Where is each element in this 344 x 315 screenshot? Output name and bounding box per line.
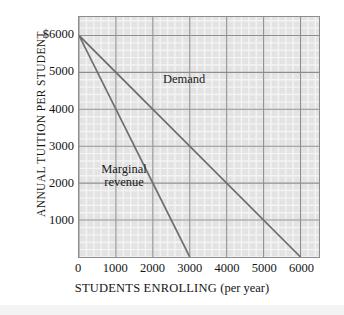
- data-series-lines: [79, 17, 319, 257]
- series-line-1: [79, 35, 190, 257]
- mr-label-line1: Marginal: [101, 162, 147, 176]
- mr-label-line2: revenue: [104, 175, 144, 189]
- bottom-band-artifact: [0, 305, 344, 315]
- y-tick-label: 3000: [18, 140, 74, 153]
- y-tick-label: 2000: [18, 177, 74, 190]
- y-tick-label: 5000: [18, 65, 74, 78]
- x-axis-tick-labels: 0100020003000400050006000: [0, 262, 344, 280]
- y-tick-label: 1000: [18, 214, 74, 227]
- series-label-marginal-revenue: Marginal revenue: [93, 163, 155, 189]
- y-tick-label: $6000: [18, 28, 74, 41]
- chart-figure: ANNUAL TUITION PER STUDENT 1000200030004…: [0, 0, 344, 315]
- plot-area: Demand Marginal revenue: [78, 16, 320, 258]
- series-line-0: [79, 35, 301, 257]
- x-axis-title-sub: (per year): [220, 281, 269, 295]
- x-axis-title-main: STUDENTS ENROLLING: [75, 281, 217, 295]
- series-label-demand: Demand: [163, 73, 205, 86]
- y-tick-label: 4000: [18, 103, 74, 116]
- x-tick-label: 6000: [279, 262, 323, 275]
- x-axis-title: STUDENTS ENROLLING (per year): [0, 281, 344, 296]
